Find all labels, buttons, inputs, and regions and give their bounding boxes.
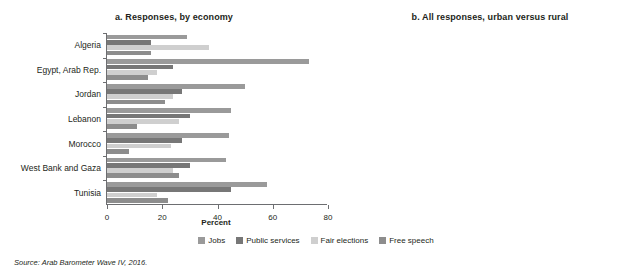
category-label: Egypt, Arab Rep. (37, 65, 101, 75)
legend-swatch-icon (236, 237, 243, 244)
bar-free-speech (107, 75, 148, 80)
category-label: Lebanon (68, 114, 101, 124)
bar-public-services (107, 65, 173, 70)
category-label: Jordan (75, 89, 101, 99)
legend-label: Free speech (389, 236, 433, 245)
bar-group: Algeria (107, 35, 327, 56)
bar-fair-elections (107, 144, 171, 149)
bar-group: Tunisia (107, 182, 327, 203)
legend-label: Jobs (208, 236, 225, 245)
bar-fair-elections (107, 193, 157, 198)
bar-free-speech (107, 198, 168, 203)
bar-group: West Bank and Gaza (107, 158, 327, 179)
bar-public-services (107, 187, 231, 192)
category-label: Tunisia (74, 188, 101, 198)
y-tick (103, 107, 107, 108)
legend-swatch-icon (311, 237, 318, 244)
bar-jobs (107, 35, 187, 40)
bar-group: Egypt, Arab Rep. (107, 59, 327, 80)
chart-legend: JobsPublic servicesFair electionsFree sp… (0, 236, 632, 245)
legend-item: Free speech (379, 236, 433, 245)
y-tick (103, 156, 107, 157)
legend-item: Fair elections (311, 236, 369, 245)
category-label: Morocco (68, 139, 101, 149)
y-tick (103, 58, 107, 59)
legend-label: Public services (246, 236, 299, 245)
bar-free-speech (107, 149, 129, 154)
legend-item: Jobs (198, 236, 225, 245)
bar-public-services (107, 163, 190, 168)
panel-b-title: b. All responses, urban versus rural (348, 12, 632, 22)
x-tick (162, 205, 163, 209)
bar-public-services (107, 114, 190, 119)
y-tick (103, 33, 107, 34)
category-label: West Bank and Gaza (21, 163, 101, 173)
x-tick (273, 205, 274, 209)
bar-jobs (107, 133, 229, 138)
bar-group: Lebanon (107, 108, 327, 129)
bar-jobs (107, 59, 309, 64)
bar-free-speech (107, 124, 137, 129)
bar-public-services (107, 89, 182, 94)
chart-panel-a: a. Responses, by economy 020406080Algeri… (0, 0, 348, 232)
bar-fair-elections (107, 94, 173, 99)
source-note: Source: Arab Barometer Wave IV, 2016. (14, 258, 147, 267)
panel-a-plot-area: 020406080AlgeriaEgypt, Arab Rep.JordanLe… (106, 33, 327, 205)
bar-jobs (107, 158, 226, 163)
y-tick (103, 131, 107, 132)
legend-swatch-icon (198, 237, 205, 244)
bar-jobs (107, 84, 245, 89)
bar-free-speech (107, 51, 151, 56)
bar-free-speech (107, 173, 179, 178)
panel-a-x-axis-title: Percent (106, 218, 326, 227)
bar-public-services (107, 138, 182, 143)
legend-item: Public services (236, 236, 299, 245)
bar-group: Morocco (107, 133, 327, 154)
x-tick (328, 205, 329, 209)
category-label: Algeria (75, 40, 101, 50)
chart-panel-b: b. All responses, urban versus rural 010… (348, 0, 632, 232)
x-tick (107, 205, 108, 209)
figure-container: a. Responses, by economy 020406080Algeri… (0, 0, 632, 274)
bar-fair-elections (107, 168, 173, 173)
bar-fair-elections (107, 70, 157, 75)
bar-free-speech (107, 100, 165, 105)
bar-jobs (107, 182, 267, 187)
legend-swatch-icon (379, 237, 386, 244)
bar-fair-elections (107, 45, 209, 50)
bar-fair-elections (107, 119, 179, 124)
bar-jobs (107, 108, 231, 113)
panel-a-title: a. Responses, by economy (0, 12, 348, 22)
legend-label: Fair elections (321, 236, 369, 245)
y-tick (103, 82, 107, 83)
x-tick (218, 205, 219, 209)
y-tick (103, 180, 107, 181)
bar-public-services (107, 40, 151, 45)
bar-group: Jordan (107, 84, 327, 105)
